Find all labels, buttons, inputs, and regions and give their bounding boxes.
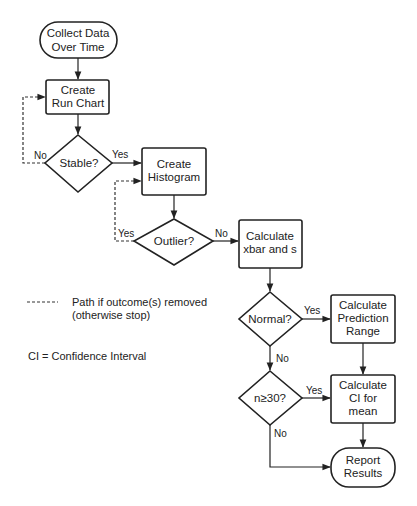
node-collect-data: Collect Data Over Time <box>40 22 117 58</box>
svg-text:Histogram: Histogram <box>148 171 200 183</box>
legend-dashed-path: Path if outcome(s) removed (otherwise st… <box>72 296 207 322</box>
svg-text:Calculate: Calculate <box>339 379 387 391</box>
svg-text:CI for: CI for <box>349 392 377 404</box>
node-calculate-ci-mean: Calculate CI for mean <box>331 375 395 423</box>
edges <box>23 58 363 467</box>
node-report-results: Report Results <box>331 448 395 487</box>
legend-ci-abbreviation: CI = Confidence Interval <box>28 350 146 363</box>
svg-text:mean: mean <box>349 405 378 417</box>
node-normal-decision: Normal? <box>239 292 302 346</box>
svg-text:xbar and s: xbar and s <box>243 243 297 255</box>
node-calculate-prediction-range: Calculate Prediction Range <box>331 295 395 343</box>
flowchart-canvas: Collect Data Over Time Create Run Chart … <box>0 0 417 506</box>
svg-text:Calculate: Calculate <box>246 230 294 242</box>
node-calculate-xbar: Calculate xbar and s <box>239 220 302 268</box>
svg-text:Stable?: Stable? <box>59 157 98 169</box>
svg-text:Create: Create <box>157 158 192 170</box>
svg-text:Outlier?: Outlier? <box>154 235 194 247</box>
svg-text:Collect Data: Collect Data <box>47 27 110 39</box>
label-n30-yes: Yes <box>306 385 322 396</box>
label-outlier-yes: Yes <box>118 228 134 239</box>
svg-text:Create: Create <box>61 84 96 96</box>
svg-text:Normal?: Normal? <box>248 313 291 325</box>
label-normal-yes: Yes <box>304 305 320 316</box>
svg-text:Report: Report <box>346 454 381 466</box>
svg-text:Over Time: Over Time <box>51 41 104 53</box>
label-stable-no: No <box>34 150 47 161</box>
node-n30-decision: n≥30? <box>239 371 302 425</box>
svg-text:n≥30?: n≥30? <box>254 392 286 404</box>
node-stable-decision: Stable? <box>45 135 112 192</box>
label-outlier-no: No <box>215 228 228 239</box>
label-normal-no: No <box>276 353 289 364</box>
node-outlier-decision: Outlier? <box>134 219 213 265</box>
node-create-run-chart: Create Run Chart <box>46 80 109 114</box>
label-n30-no: No <box>274 428 287 439</box>
svg-text:Prediction: Prediction <box>337 312 388 324</box>
label-stable-yes: Yes <box>112 149 128 160</box>
node-create-histogram: Create Histogram <box>142 148 206 195</box>
legend-dashed-text-line2: (otherwise stop) <box>72 309 207 322</box>
svg-text:Results: Results <box>344 467 383 479</box>
svg-text:Range: Range <box>346 325 380 337</box>
legend-dashed-text-line1: Path if outcome(s) removed <box>72 296 207 309</box>
svg-text:Run Chart: Run Chart <box>52 97 105 109</box>
svg-text:Calculate: Calculate <box>339 299 387 311</box>
